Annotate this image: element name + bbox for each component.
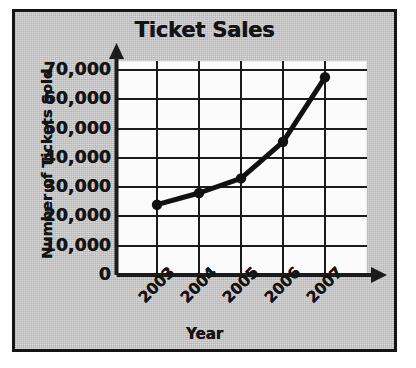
y-axis-tick-label: 20,000 — [19, 207, 111, 225]
y-axis-tick-label: 60,000 — [19, 90, 111, 108]
y-axis-tick-labels: 70,00060,00050,00040,00030,00020,00010,0… — [15, 61, 111, 277]
data-point-marker — [236, 173, 246, 183]
plot-wrapper — [115, 61, 367, 277]
chart-title: Ticket Sales — [15, 18, 394, 42]
data-point-marker — [320, 72, 330, 82]
y-axis-tick-label: 50,000 — [19, 120, 111, 138]
data-point-marker — [278, 137, 288, 147]
data-line — [157, 77, 325, 204]
data-point-marker — [152, 200, 162, 210]
data-point-marker — [194, 188, 204, 198]
chart-page: Ticket Sales Number of Tickets Sold Year… — [0, 0, 416, 368]
y-axis-tick-label: 70,000 — [19, 61, 111, 79]
y-axis-tick-label: 10,000 — [19, 237, 111, 255]
y-axis-tick-label: 30,000 — [19, 178, 111, 196]
chart-panel: Ticket Sales Number of Tickets Sold Year… — [12, 9, 397, 352]
y-axis-arrow-icon — [109, 43, 124, 59]
y-axis-tick-label: 40,000 — [19, 149, 111, 167]
data-series-overlay — [115, 61, 367, 277]
x-axis-tick-labels: 20032004200520062007 — [115, 280, 375, 340]
y-axis-tick-label: 0 — [19, 266, 111, 284]
